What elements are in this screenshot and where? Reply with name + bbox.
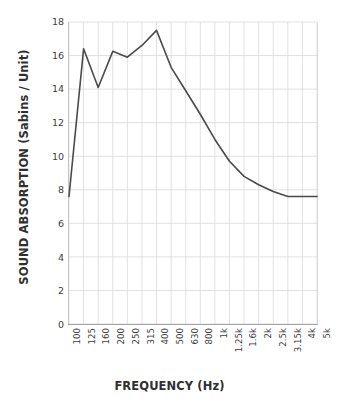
x-tick-label: 5k (322, 328, 332, 338)
x-tick-label: 3.15k (293, 328, 303, 352)
x-tick-label: 160 (101, 328, 111, 344)
x-axis-tick-labels: 1001251602002503154005006308001k1.25k1.6… (68, 328, 318, 376)
y-axis-tick-labels: 024681012141618 (34, 22, 64, 325)
y-tick-label: 10 (38, 152, 64, 162)
x-tick-label: 800 (204, 328, 214, 344)
x-axis-title: FREQUENCY (Hz) (0, 379, 339, 393)
y-tick-label: 0 (38, 320, 64, 330)
x-tick-label: 125 (87, 328, 97, 344)
x-tick-label: 1k (219, 328, 229, 338)
x-tick-label: 4k (307, 328, 317, 338)
plot-area (68, 22, 318, 325)
x-tick-label: 250 (131, 328, 141, 344)
x-tick-label: 1.25k (234, 328, 244, 352)
x-tick-label: 2.5k (278, 328, 288, 347)
y-axis-title: SOUND ABSORPTION (Sabins / Unit) (17, 7, 31, 327)
data-series-line (69, 22, 317, 324)
y-tick-label: 8 (38, 185, 64, 195)
sound-absorption-chart: SOUND ABSORPTION (Sabins / Unit) 0246810… (0, 0, 339, 401)
x-tick-label: 2k (263, 328, 273, 338)
x-tick-label: 200 (116, 328, 126, 344)
y-tick-label: 2 (38, 286, 64, 296)
x-tick-label: 100 (72, 328, 82, 344)
x-tick-label: 1.6k (248, 328, 258, 347)
y-tick-label: 18 (38, 17, 64, 27)
y-tick-label: 16 (38, 51, 64, 61)
x-tick-label: 315 (146, 328, 156, 344)
y-tick-label: 4 (38, 253, 64, 263)
x-tick-label: 500 (175, 328, 185, 344)
y-tick-label: 14 (38, 84, 64, 94)
y-tick-label: 6 (38, 219, 64, 229)
y-tick-label: 12 (38, 118, 64, 128)
x-tick-label: 400 (160, 328, 170, 344)
x-tick-label: 630 (190, 328, 200, 344)
series-line-sound-absorption (69, 30, 317, 196)
